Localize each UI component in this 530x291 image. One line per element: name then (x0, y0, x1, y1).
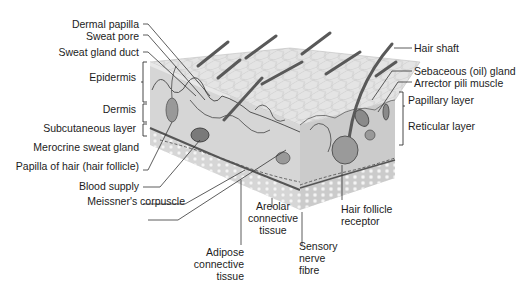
label-line: Hair follicle (341, 203, 421, 215)
label-hair-shaft: Hair shaft (414, 42, 459, 54)
label-dermal-papilla: Dermal papilla (72, 18, 139, 30)
label-hair-follicle-receptor: Hair follicle receptor (341, 203, 421, 227)
label-papilla-of-hair: Papilla of hair (hair follicle) (16, 160, 139, 172)
label-adipose-connective-tissue: Adipose connective tissue (186, 246, 244, 282)
label-merocrine-sweat-gland: Merocrine sweat gland (33, 141, 139, 153)
label-reticular-layer: Reticular layer (408, 120, 475, 132)
skin-structure-diagram: Dermal papilla Sweat pore Sweat gland du… (0, 0, 530, 291)
label-line: Adipose (186, 246, 244, 258)
label-line: tissue (186, 270, 244, 282)
label-arrector-pili-muscle: Arrector pili muscle (414, 77, 503, 89)
label-areolar-connective-tissue: Areolar connective tissue (244, 200, 302, 236)
label-line: nerve (299, 252, 349, 264)
label-line: connective (186, 258, 244, 270)
label-subcutaneous-layer: Subcutaneous layer (43, 122, 136, 134)
label-papillary-layer: Papillary layer (408, 94, 474, 106)
label-meissners-corpuscle: Meissner's corpuscle (87, 195, 185, 207)
label-line: Areolar (244, 200, 302, 212)
label-dermis: Dermis (103, 103, 136, 115)
label-sweat-gland-duct: Sweat gland duct (58, 46, 139, 58)
label-sebaceous-gland: Sebaceous (oil) gland (414, 65, 516, 77)
label-epidermis: Epidermis (89, 71, 136, 83)
label-blood-supply: Blood supply (79, 180, 139, 192)
label-line: fibre (299, 264, 349, 276)
label-line: receptor (341, 215, 421, 227)
label-sweat-pore: Sweat pore (86, 30, 139, 42)
label-line: Sensory (299, 240, 349, 252)
label-line: tissue (244, 224, 302, 236)
label-line: connective (244, 212, 302, 224)
label-sensory-nerve-fibre: Sensory nerve fibre (299, 240, 349, 276)
